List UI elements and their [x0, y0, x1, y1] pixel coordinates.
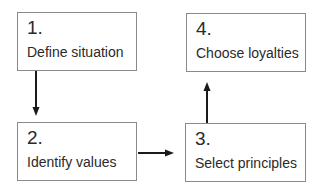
- arrow-down-icon: [33, 71, 40, 116]
- arrow-up-icon: [204, 82, 211, 123]
- arrow-right-icon: [138, 150, 174, 157]
- arrows-layer: [0, 0, 325, 192]
